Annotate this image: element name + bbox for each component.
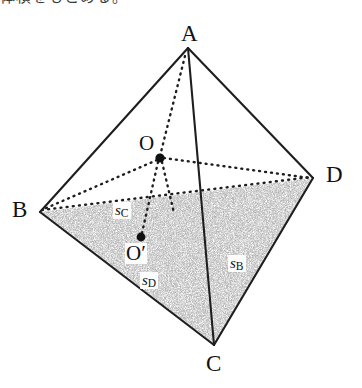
figure-stage: 体積をもとめる。 (0, 0, 362, 388)
vertex-label-B: B (12, 198, 27, 221)
point-label-O-prime: O′ (125, 243, 147, 264)
vertex-label-A: A (181, 22, 198, 45)
vertex-label-D: D (326, 163, 343, 186)
vertex-label-C: C (206, 352, 221, 375)
area-symbol-s-B: s (230, 255, 236, 271)
tetrahedron-svg (0, 0, 362, 388)
area-label-s-D: sD (140, 272, 158, 289)
area-label-s-C: sC (113, 202, 131, 219)
edge-OD (164, 158, 310, 178)
tetrahedron-figure (0, 0, 362, 388)
area-label-s-B: sB (228, 255, 246, 272)
area-symbol-s-C: s (115, 202, 121, 218)
point-label-O: O (139, 133, 154, 154)
edge-OA (160, 52, 186, 156)
area-subscript-C: C (121, 207, 129, 219)
edge-AB (40, 48, 188, 212)
point-O (155, 153, 164, 162)
edge-AD (188, 48, 313, 178)
area-symbol-s-D: s (142, 272, 148, 288)
area-subscript-D: D (148, 277, 156, 289)
area-subscript-B: B (236, 260, 244, 272)
